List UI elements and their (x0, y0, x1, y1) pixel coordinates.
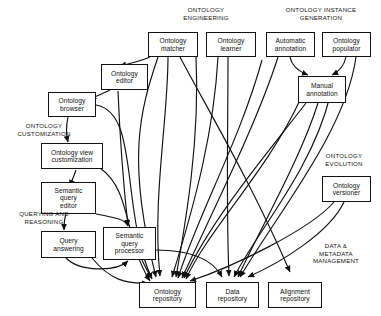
node-data-repository[interactable]: Data repository (206, 282, 259, 308)
node-semantic-query-editor-label: Semantic query editor (55, 187, 83, 209)
node-automatic-annotation[interactable]: Automatic annotation (266, 32, 315, 57)
edge-query-editor-to-query-processor (96, 214, 128, 226)
node-semantic-query-processor-label: Semantic query processor (115, 232, 144, 254)
node-manual-annotation-label: Manual annotation (306, 82, 337, 97)
node-automatic-annotation-label: Automatic annotation (275, 37, 306, 52)
node-ontology-view-customization[interactable]: Ontology view customization (41, 143, 103, 169)
edge-fan-strand-b (178, 60, 262, 278)
node-ontology-populator[interactable]: Ontology populator (322, 32, 371, 57)
node-data-repository-label: Data repository (218, 288, 247, 303)
node-ontology-learner-label: Ontology learner (218, 37, 245, 52)
node-alignment-repository[interactable]: Alignment repository (268, 282, 322, 308)
edge-fan-strand-c (186, 100, 300, 279)
node-ontology-view-customization-label: Ontology view customization (51, 149, 93, 164)
group-label-ontology-engineering: ONTOLOGY ENGINEERING (168, 6, 244, 21)
node-ontology-editor[interactable]: Ontology editor (101, 64, 148, 90)
node-ontology-versioner-label: Ontology versioner (333, 182, 361, 197)
node-query-answering-label: Query answering (53, 237, 84, 252)
edge-view-customization-to-ontology-repository (100, 168, 150, 281)
node-query-answering[interactable]: Query answering (41, 231, 96, 258)
edge-query-answering-to-ontology-repository (92, 258, 148, 283)
group-label-ontology-customization: ONTOLOGY CUSTOMIZATION (2, 122, 86, 137)
edge-populator-to-manual-annotation (332, 57, 346, 75)
node-ontology-repository-label: Ontology repository (153, 288, 182, 303)
node-ontology-matcher[interactable]: Ontology matcher (148, 32, 198, 57)
group-label-querying-and-reasoning: QUERYING AND REASONING (2, 210, 86, 225)
group-label-data-metadata-management: DATA & METADATA MANAGEMENT (304, 242, 368, 265)
node-ontology-populator-label: Ontology populator (333, 37, 361, 52)
node-ontology-editor-label: Ontology editor (111, 70, 138, 85)
edge-learner-to-ontology-repository (172, 57, 218, 277)
node-ontology-browser[interactable]: Ontology browser (48, 92, 96, 117)
node-ontology-versioner[interactable]: Ontology versioner (322, 176, 371, 202)
architecture-diagram: ONTOLOGY ENGINEERING ONTOLOGY INSTANCE G… (0, 0, 381, 316)
node-ontology-browser-label: Ontology browser (59, 97, 86, 112)
group-label-ontology-instance-generation: ONTOLOGY INSTANCE GENERATION (268, 6, 374, 21)
node-alignment-repository-label: Alignment repository (280, 288, 310, 303)
node-manual-annotation[interactable]: Manual annotation (298, 76, 346, 103)
edge-learner-to-data-repository (227, 57, 229, 276)
group-label-ontology-evolution: ONTOLOGY EVOLUTION (312, 152, 376, 167)
node-ontology-repository[interactable]: Ontology repository (139, 282, 196, 308)
edge-fan-strand-a (176, 57, 197, 277)
node-ontology-learner[interactable]: Ontology learner (206, 32, 256, 57)
edge-matcher-to-ontology-repository (158, 57, 168, 276)
node-semantic-query-processor[interactable]: Semantic query processor (103, 227, 156, 260)
node-ontology-matcher-label: Ontology matcher (160, 37, 187, 52)
edge-automatic-to-manual-annotation (290, 57, 308, 75)
